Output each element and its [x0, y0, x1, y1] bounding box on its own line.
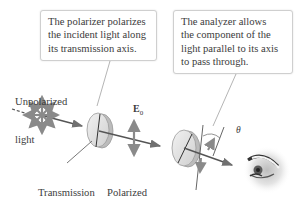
polarization-diagram: The polarizer polarizes the incident lig… [0, 0, 308, 201]
callout-pointer-analyzer [213, 74, 236, 126]
observer-eye-icon [243, 146, 291, 194]
e-field-subscript: 0 [140, 109, 144, 117]
callout-analyzer: The analyzer allows the component of the… [173, 10, 293, 74]
callout-analyzer-line: The analyzer allows [181, 15, 286, 28]
callout-polarizer-line: its transmission axis. [48, 42, 150, 55]
callout-polarizer-line: The polarizer polarizes [48, 15, 150, 28]
callout-analyzer-line: to pass through. [181, 55, 286, 68]
transmission-axis-pointer [67, 141, 92, 163]
label-e-field: E0 [133, 103, 143, 120]
callout-polarizer: The polarizer polarizes the incident lig… [40, 10, 157, 61]
label-line: Unpolarized [15, 96, 67, 109]
callout-polarizer-line: the incident light along [48, 28, 150, 41]
label-theta-angle: θ [236, 124, 241, 137]
polarizer-disc [87, 113, 113, 148]
label-unpolarized-light: Unpolarized light [15, 71, 67, 171]
callout-pointer-polarizer [97, 61, 110, 106]
label-line: Polarized [107, 187, 147, 200]
callout-analyzer-line: light parallel to its axis [181, 42, 286, 55]
label-transmission-axis: Transmission axis [38, 162, 95, 201]
label-line: light [15, 134, 67, 147]
label-line: Transmission [38, 187, 95, 200]
callout-analyzer-line: the component of the [181, 28, 286, 41]
label-polarized-light: Polarized light [107, 162, 147, 201]
e-field-symbol: E [133, 103, 140, 114]
